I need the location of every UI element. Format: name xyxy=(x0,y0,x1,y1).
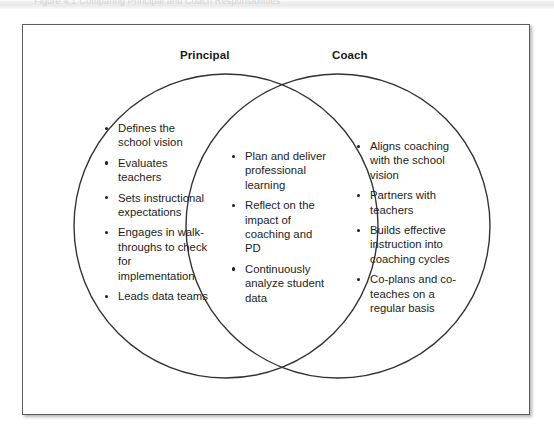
venn-label-principal: Principal xyxy=(180,49,229,61)
list-item-text: Leads data teams xyxy=(118,290,208,302)
list-item-text: Co-plans and co-teaches on a regular bas… xyxy=(370,273,456,314)
list-item-text: Evaluates teachers xyxy=(118,157,168,183)
list-item-text: Engages in walk-throughs to check for im… xyxy=(118,226,207,281)
bullet-icon xyxy=(105,127,108,130)
list-item-text: Builds effective instruction into coachi… xyxy=(370,224,450,265)
bullet-icon xyxy=(232,267,235,270)
venn-right-list: Aligns coaching with the school vision P… xyxy=(356,139,468,315)
list-item: Defines the school vision xyxy=(104,121,208,150)
bullet-icon xyxy=(232,204,235,207)
list-item-text: Continuously analyze student data xyxy=(245,263,324,304)
list-item-text: Reflect on the impact of coaching and PD xyxy=(245,199,315,254)
cropped-header-strip: Figure 4.1 Comparing Principal and Coach… xyxy=(0,0,554,9)
list-item: Aligns coaching with the school vision xyxy=(356,139,468,182)
bullet-icon xyxy=(105,161,108,164)
list-item: Engages in walk-throughs to check for im… xyxy=(104,225,208,283)
bullet-icon xyxy=(105,196,108,199)
bullet-icon xyxy=(357,145,360,148)
list-item-text: Sets instructional expectations xyxy=(118,192,204,218)
bullet-icon xyxy=(357,278,360,281)
bullet-icon xyxy=(232,155,235,158)
bullet-icon xyxy=(105,295,108,298)
list-item-text: Partners with teachers xyxy=(370,189,436,215)
list-item: Co-plans and co-teaches on a regular bas… xyxy=(356,272,468,315)
list-item-text: Defines the school vision xyxy=(118,122,183,148)
venn-left-list: Defines the school vision Evaluates teac… xyxy=(104,121,208,303)
list-item: Partners with teachers xyxy=(356,188,468,217)
list-item: Leads data teams xyxy=(104,289,208,303)
list-item: Evaluates teachers xyxy=(104,156,208,185)
list-item: Continuously analyze student data xyxy=(231,262,327,305)
list-item-text: Aligns coaching with the school vision xyxy=(370,140,449,181)
list-item: Plan and deliver professional learning xyxy=(231,149,327,192)
list-item-text: Plan and deliver professional learning xyxy=(245,150,326,191)
bullet-icon xyxy=(357,194,360,197)
venn-label-coach: Coach xyxy=(332,49,368,61)
bullet-icon xyxy=(357,229,360,232)
cropped-header-text: Figure 4.1 Comparing Principal and Coach… xyxy=(34,0,281,6)
list-item: Reflect on the impact of coaching and PD xyxy=(231,198,327,256)
bullet-icon xyxy=(105,231,108,234)
list-item: Builds effective instruction into coachi… xyxy=(356,223,468,266)
venn-overlap-list: Plan and deliver professional learning R… xyxy=(231,149,327,305)
list-item: Sets instructional expectations xyxy=(104,191,208,220)
